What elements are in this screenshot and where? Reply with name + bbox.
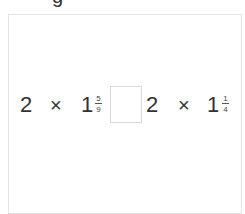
clipped-heading: g [52,0,63,6]
left-times-operator: × [50,90,62,120]
left-denominator: 9 [96,105,100,114]
right-numerator: 1 [223,94,227,103]
right-mixed-whole: 1 [207,90,219,120]
left-mixed-whole: 1 [81,90,93,120]
right-denominator: 4 [223,105,227,114]
right-factor: 2 [146,90,158,120]
left-numerator: 5 [96,94,100,103]
left-factor: 2 [20,90,32,120]
left-fraction: 5 9 [94,94,103,114]
comparison-answer-box[interactable] [110,86,142,123]
left-fraction-bar [95,103,102,104]
right-fraction-bar [222,103,229,104]
right-times-operator: × [178,90,190,120]
right-fraction: 1 4 [221,94,230,114]
